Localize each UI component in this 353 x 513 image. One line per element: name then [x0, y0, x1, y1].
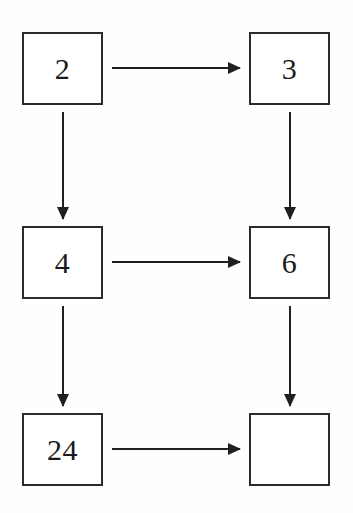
node-box-top-left[interactable]: 2 [22, 32, 103, 105]
arrow-right-icon-bottom-row [112, 448, 240, 450]
node-box-bottom-right-empty[interactable] [249, 413, 330, 486]
node-label-top-right: 3 [282, 54, 298, 84]
arrow-down-icon-right-upper [289, 112, 291, 219]
node-label-middle-right: 6 [282, 248, 298, 278]
arrow-down-icon-right-lower [289, 306, 291, 406]
node-label-bottom-left: 24 [47, 435, 78, 465]
arrow-down-icon-left-lower [62, 306, 64, 406]
node-label-middle-left: 4 [55, 248, 71, 278]
node-box-middle-right[interactable]: 6 [249, 226, 330, 299]
node-label-top-left: 2 [55, 54, 71, 84]
diagram-canvas: 2 3 4 6 24 [0, 0, 353, 513]
arrow-down-icon-left-upper [62, 112, 64, 219]
node-box-bottom-left[interactable]: 24 [22, 413, 103, 486]
node-box-middle-left[interactable]: 4 [22, 226, 103, 299]
arrow-right-icon-top-row [112, 67, 240, 69]
node-box-top-right[interactable]: 3 [249, 32, 330, 105]
arrow-right-icon-middle-row [112, 261, 240, 263]
